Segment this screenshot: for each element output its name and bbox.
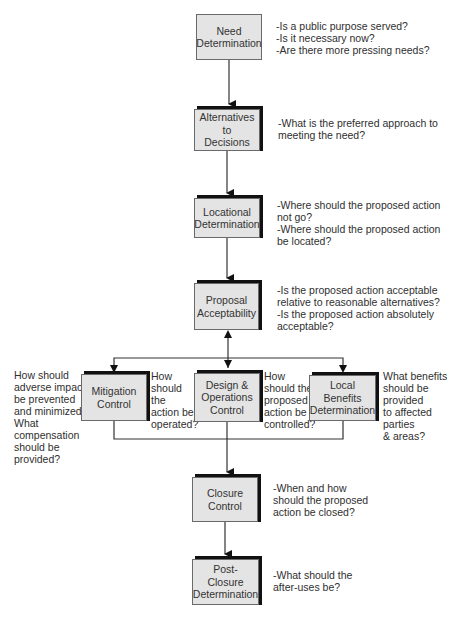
node-need-determination: Need Determination [196, 14, 262, 60]
note-alternatives: -What is the preferred approach to meeti… [278, 117, 438, 141]
note-closure: -When and how should the proposed action… [273, 482, 368, 518]
note-post-closure: -What should the after-uses be? [273, 569, 352, 593]
node-design-operations-control: Design & Operations Control [194, 373, 260, 422]
note-local: What benefits should be provided to affe… [383, 370, 447, 442]
note-need: -Is a public purpose served? -Is it nece… [276, 20, 430, 56]
note-proposal: -Is the proposed action acceptable relat… [277, 284, 440, 332]
node-mitigation-control: Mitigation Control [81, 374, 147, 421]
node-locational-determination: Locational Determination [194, 198, 260, 238]
node-post-closure-determination: Post- Closure Determination [192, 559, 259, 605]
node-proposal-acceptability: Proposal Acceptability [194, 283, 259, 330]
note-mitigation: How should adverse impacts be prevented … [14, 369, 90, 465]
node-closure-control: Closure Control [192, 477, 258, 522]
note-design: How should the proposed action be contro… [264, 370, 315, 430]
node-local-benefits-determination: Local Benefits Determination [309, 375, 376, 421]
note-mitigation-operated: How should the action be operated? [151, 370, 198, 430]
node-alternatives-to-decisions: Alternatives to Decisions [194, 109, 260, 151]
note-locational: -Where should the proposed action not go… [277, 199, 440, 247]
